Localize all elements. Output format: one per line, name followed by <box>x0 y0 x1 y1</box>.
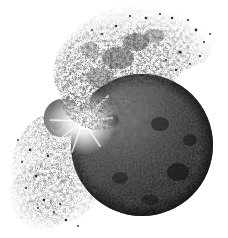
impact-scene-svg <box>0 0 228 238</box>
impact-illustration <box>0 0 228 238</box>
